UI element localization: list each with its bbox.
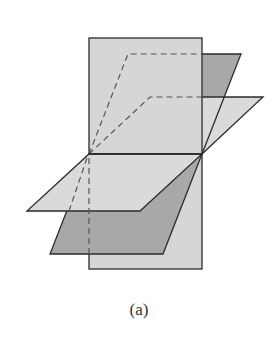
three-planes-diagram: (a) bbox=[0, 0, 278, 339]
figure-caption: (a) bbox=[0, 300, 278, 320]
planes-svg bbox=[0, 0, 278, 339]
